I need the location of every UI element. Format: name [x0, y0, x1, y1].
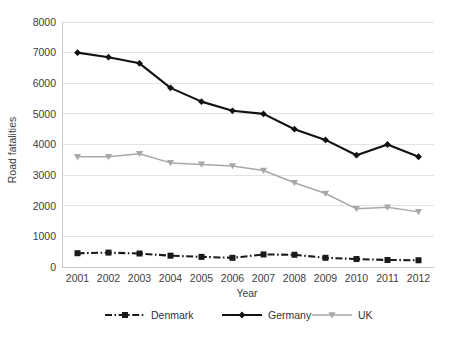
x-tick-label: 2007	[252, 272, 276, 284]
legend-label: Denmark	[151, 309, 194, 321]
chart-background	[0, 0, 461, 338]
x-tick-label: 2006	[221, 272, 245, 284]
x-tick-label: 2003	[128, 272, 152, 284]
y-tick-label: 6000	[33, 77, 57, 89]
x-tick-label: 2008	[283, 272, 307, 284]
data-point-marker	[199, 254, 205, 260]
x-tick-label: 2011	[376, 272, 399, 284]
y-tick-label: 5000	[33, 108, 57, 120]
y-tick-label: 2000	[33, 200, 57, 212]
x-tick-label: 2012	[407, 272, 431, 284]
data-point-marker	[261, 251, 267, 257]
y-tick-label: 0	[50, 261, 56, 273]
x-tick-label: 2009	[314, 272, 338, 284]
line-chart: 010002000300040005000600070008000 200120…	[0, 0, 461, 338]
data-point-marker	[75, 250, 81, 256]
x-tick-label: 2004	[159, 272, 183, 284]
x-tick-label: 2010	[345, 272, 369, 284]
x-axis-title: Year	[236, 287, 258, 299]
data-point-marker	[230, 255, 236, 261]
legend-label: UK	[358, 309, 373, 321]
data-point-marker	[292, 252, 298, 258]
chart-container: 010002000300040005000600070008000 200120…	[0, 0, 461, 338]
y-axis-tick-labels: 010002000300040005000600070008000	[33, 16, 57, 273]
data-point-marker	[323, 255, 329, 261]
x-tick-label: 2001	[66, 272, 90, 284]
y-tick-label: 4000	[33, 138, 57, 150]
x-tick-label: 2005	[190, 272, 214, 284]
y-tick-label: 3000	[33, 169, 57, 181]
data-point-marker	[106, 250, 112, 256]
data-point-marker	[354, 256, 360, 262]
data-point-marker	[137, 251, 143, 257]
y-tick-label: 7000	[33, 46, 57, 58]
y-tick-label: 8000	[33, 16, 57, 28]
legend-label: Germany	[268, 309, 312, 321]
x-tick-label: 2002	[97, 272, 121, 284]
data-point-marker	[416, 257, 422, 263]
y-tick-label: 1000	[33, 230, 57, 242]
data-point-marker	[122, 312, 128, 318]
y-axis-title: Road fatalities	[6, 117, 18, 184]
data-point-marker	[168, 253, 174, 259]
data-point-marker	[385, 257, 391, 263]
